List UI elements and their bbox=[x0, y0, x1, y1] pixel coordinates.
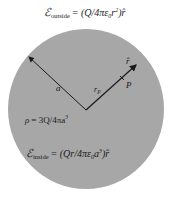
outside-field-equation: ℰoutside= (Q/4πε0r2)r̂ bbox=[44, 6, 126, 19]
radius-label: a bbox=[56, 83, 61, 93]
charge-density-equation: ρ= 3Q/4πa3 bbox=[24, 114, 68, 125]
unit-vector-label: r̂ bbox=[126, 56, 130, 66]
charged-sphere bbox=[8, 29, 164, 189]
sphere-diagram: ℰoutside= (Q/4πε0r2)r̂ a rP P r̂ ρ= 3Q/4… bbox=[0, 0, 170, 198]
point-p-label: P bbox=[125, 80, 132, 90]
